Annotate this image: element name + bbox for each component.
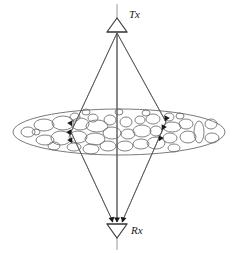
scatterer-ellipse (83, 144, 99, 154)
scatterer-ellipse (48, 142, 60, 150)
scatterer-ellipse (168, 144, 180, 152)
receiver-antenna: Rx (107, 224, 143, 250)
scatterer-ellipse (82, 109, 90, 115)
scatterer-ellipse (117, 141, 133, 151)
rx-arrow-right (120, 217, 127, 223)
scatterer-ellipse (115, 109, 123, 115)
scatter-cloud-group (13, 109, 225, 155)
rx-arrow-center (114, 217, 120, 222)
scatterer-ellipse (32, 129, 40, 135)
scatterer-ellipse (176, 113, 184, 119)
scatterer-ellipse (135, 116, 145, 124)
scatterer-ellipses-group (21, 109, 219, 154)
rx-antenna-triangle-icon (107, 224, 127, 238)
scattering-diagram-figure: Tx Rx (0, 0, 238, 253)
scatterer-ellipse (205, 119, 217, 129)
tx-label: Tx (129, 8, 140, 20)
tx-antenna-triangle-icon (107, 18, 127, 32)
scatterer-ellipse (163, 133, 177, 143)
scatterer-ellipse (133, 139, 149, 149)
rx-label: Rx (130, 224, 143, 236)
scatterer-ellipse (103, 127, 121, 139)
scatterer-ellipse (205, 133, 219, 143)
scatterer-ellipse (179, 119, 193, 129)
scatterer-ellipse (194, 121, 204, 143)
transmitter-antenna: Tx (107, 4, 140, 32)
scatterer-ellipse (104, 115, 116, 125)
scatterer-ellipse (142, 110, 150, 116)
scatterer-ellipse (100, 141, 116, 151)
scatterer-ellipse (133, 125, 151, 137)
scatterer-ellipse (120, 117, 132, 127)
diagram-canvas: Tx Rx (0, 0, 238, 253)
